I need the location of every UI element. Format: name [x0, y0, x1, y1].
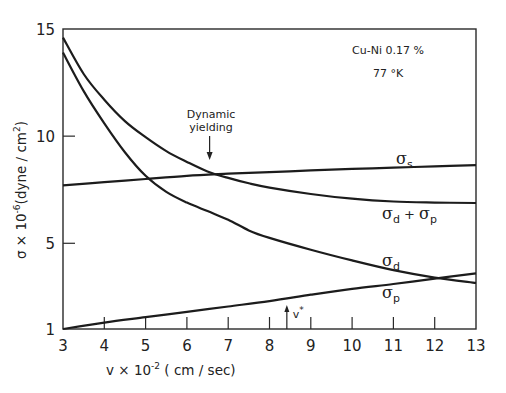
x-tick-label: 13 — [466, 337, 485, 355]
x-tick-label: 10 — [343, 337, 362, 355]
annotation-material: Cu-Ni 0.17 % — [352, 44, 424, 57]
y-axis-label: σ × 10-6(dyne / cm2) — [12, 121, 29, 259]
labels: Cu-Ni 0.17 % 77 °K Dynamic yielding σsσd… — [187, 44, 437, 329]
x-tick-label: 11 — [384, 337, 403, 355]
annotation-dynamic-line1: Dynamic — [187, 108, 236, 121]
x-axis-label: v × 10-2 ( cm / sec) — [106, 361, 236, 378]
x-tick-label: 9 — [306, 337, 316, 355]
y-tick-label: 10 — [36, 128, 55, 146]
annotation-temperature: 77 °K — [373, 67, 404, 80]
x-tick-label: 4 — [100, 337, 110, 355]
x-tick-label: 8 — [265, 337, 275, 355]
x-tick-label: 3 — [58, 337, 68, 355]
x-tick-label: 12 — [425, 337, 444, 355]
sigma-d-label: σd — [382, 251, 400, 273]
plot-frame — [63, 29, 476, 329]
plot-area-border — [63, 29, 476, 329]
x-tick-label: 7 — [223, 337, 233, 355]
sigma-d-plus-p-label: σd + σp — [382, 204, 437, 226]
sigma-s-curve — [63, 165, 476, 185]
curves — [63, 38, 476, 329]
y-tick-label: 5 — [45, 235, 55, 253]
y-tick-label: 1 — [45, 321, 55, 339]
stress-velocity-chart: 345678910111213151015v × 10-2 ( cm / sec… — [0, 0, 506, 393]
x-tick-label: 5 — [141, 337, 151, 355]
sigma-d-plus-p-curve — [63, 38, 476, 203]
v-star-arrowhead — [284, 305, 289, 312]
sigma-p-label: σp — [382, 283, 400, 305]
dynamic-yielding-arrowhead — [207, 152, 213, 160]
y-tick-label: 15 — [36, 21, 55, 39]
v-star-label: v* — [293, 305, 305, 321]
annotation-dynamic-line2: yielding — [189, 121, 232, 134]
x-tick-label: 6 — [182, 337, 192, 355]
sigma-s-label: σs — [396, 149, 413, 171]
